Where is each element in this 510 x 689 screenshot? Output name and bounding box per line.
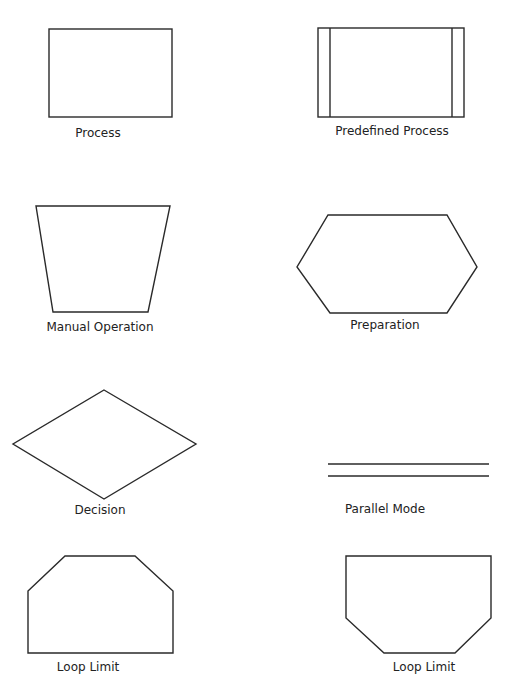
loop-limit-start-symbol xyxy=(28,556,173,653)
diagram-canvas xyxy=(0,0,510,689)
predefined-process-symbol xyxy=(318,28,464,117)
preparation-label: Preparation xyxy=(350,318,419,332)
preparation-symbol xyxy=(297,215,477,313)
loop-limit-start-label: Loop Limit xyxy=(57,660,119,674)
process-label: Process xyxy=(75,126,121,140)
manual-operation-symbol xyxy=(36,206,170,312)
process-symbol xyxy=(49,29,172,117)
parallel-mode-symbol xyxy=(328,464,489,476)
loop-limit-end-label: Loop Limit xyxy=(393,660,455,674)
decision-label: Decision xyxy=(74,503,125,517)
loop-limit-end-symbol xyxy=(346,556,491,653)
decision-symbol xyxy=(13,390,196,499)
predefined-process-label: Predefined Process xyxy=(335,124,449,138)
parallel-mode-label: Parallel Mode xyxy=(345,502,425,516)
manual-operation-label: Manual Operation xyxy=(46,320,153,334)
